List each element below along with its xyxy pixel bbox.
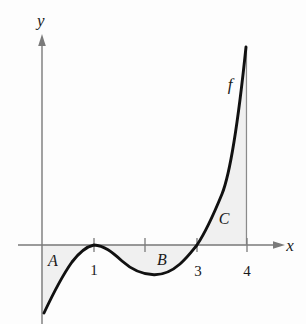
region-label-a: A bbox=[47, 252, 58, 269]
region-label-b: B bbox=[157, 251, 167, 268]
x-axis-label: x bbox=[285, 236, 294, 255]
figure-root: y x 1 3 4 A B C f bbox=[0, 0, 306, 324]
y-axis-arrowhead bbox=[38, 34, 46, 46]
y-axis-label: y bbox=[35, 11, 45, 30]
curve-f bbox=[44, 47, 246, 313]
tick-label-4: 4 bbox=[243, 263, 251, 279]
region-label-c: C bbox=[219, 210, 230, 227]
function-graph: y x 1 3 4 A B C f bbox=[0, 0, 306, 324]
tick-label-3: 3 bbox=[194, 263, 202, 279]
curve-label-f: f bbox=[228, 75, 235, 94]
x-axis-arrowhead bbox=[273, 241, 285, 249]
tick-label-1: 1 bbox=[90, 262, 98, 278]
